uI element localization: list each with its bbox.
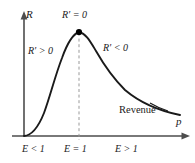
maximum-point-marker: [76, 29, 82, 35]
annotation-derivative-negative: R' < 0: [103, 43, 128, 53]
annotation-derivative-zero: R' = 0: [62, 10, 87, 20]
elasticity-region-elastic: E > 1: [115, 144, 138, 154]
figure-canvas: [0, 0, 195, 163]
x-axis: [12, 133, 190, 140]
x-axis-arrowhead: [182, 133, 191, 140]
x-axis-label: p: [176, 116, 182, 127]
elasticity-region-unit: E = 1: [64, 144, 87, 154]
annotation-derivative-positive: R' > 0: [28, 46, 53, 56]
y-axis: [21, 11, 28, 136]
revenue-elasticity-figure: R p R' = 0 R' > 0 R' < 0 Revenue E < 1 E…: [0, 0, 195, 163]
elasticity-region-inelastic: E < 1: [22, 144, 45, 154]
revenue-curve-label: Revenue: [119, 105, 156, 116]
y-axis-label: R: [26, 9, 33, 20]
